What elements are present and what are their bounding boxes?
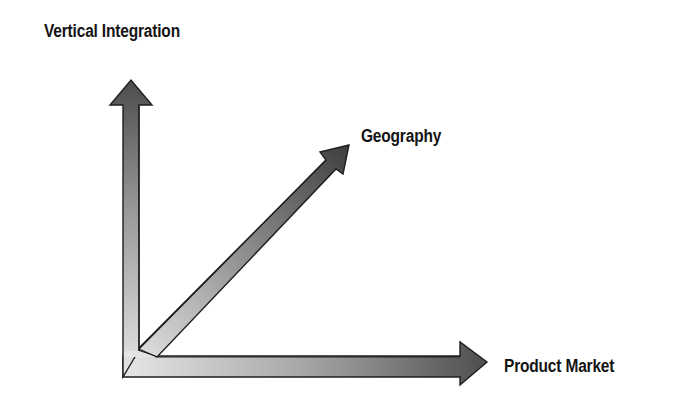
axes-arrows	[0, 0, 679, 413]
geography-arrow	[137, 145, 349, 357]
origin-inner-edge	[139, 106, 157, 357]
origin-diagonal-inner	[139, 160, 326, 349]
vertical-integration-label: Vertical Integration	[44, 21, 180, 42]
product-market-arrow	[123, 342, 487, 385]
growth-axes-diagram: Vertical Integration Geography Product M…	[0, 0, 679, 413]
product-market-label: Product Market	[504, 356, 614, 377]
vertical-integration-arrow	[110, 80, 152, 377]
geography-label: Geography	[361, 126, 441, 147]
